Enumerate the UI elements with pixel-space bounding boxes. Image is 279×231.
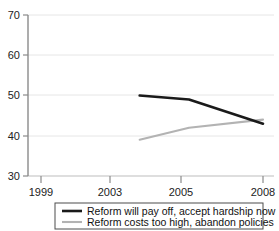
y-axis-ticks bbox=[23, 15, 28, 176]
y-tick-label-50: 50 bbox=[8, 89, 20, 101]
legend: Reform will pay off, accept hardship now… bbox=[55, 203, 276, 229]
x-axis-ticks bbox=[41, 176, 263, 183]
x-tick-label-1999: 1999 bbox=[29, 186, 53, 198]
y-tick-label-40: 40 bbox=[8, 130, 20, 142]
data-series-group bbox=[140, 96, 263, 140]
y-tick-label-60: 60 bbox=[8, 49, 20, 61]
x-tick-label-2008: 2008 bbox=[251, 186, 275, 198]
y-tick-label-70: 70 bbox=[8, 9, 20, 21]
chart-container: 70 60 50 40 30 1999 2003 2005 2008 Refor… bbox=[0, 0, 279, 231]
series-line-reform-costs-too-high bbox=[140, 120, 263, 140]
series-line-reform-will-pay-off bbox=[140, 96, 263, 124]
y-tick-label-30: 30 bbox=[8, 170, 20, 182]
x-tick-label-2003: 2003 bbox=[98, 186, 122, 198]
x-tick-label-2005: 2005 bbox=[169, 186, 193, 198]
legend-label-series-2: Reform costs too high, abandon policies bbox=[87, 216, 274, 228]
line-chart: 70 60 50 40 30 1999 2003 2005 2008 Refor… bbox=[0, 0, 279, 231]
